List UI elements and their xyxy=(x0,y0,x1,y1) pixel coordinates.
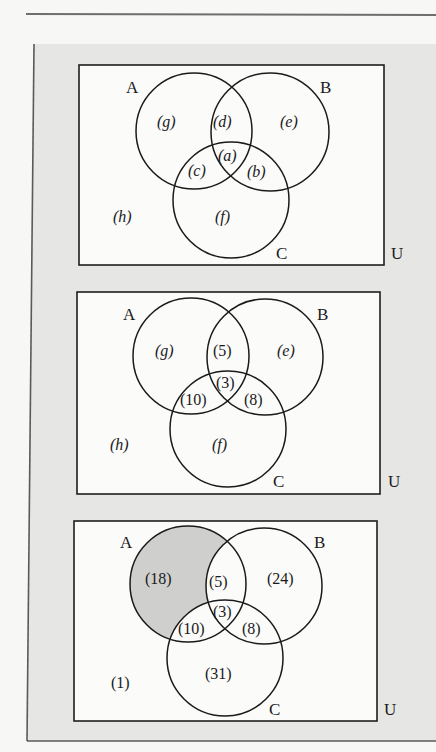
region-outside: (h) xyxy=(110,436,129,454)
region-bc-only: (8) xyxy=(242,620,261,638)
region-bc-only: (b) xyxy=(247,163,266,181)
region-b-only: (e) xyxy=(280,113,298,131)
region-a-only: (g) xyxy=(155,342,174,360)
set-label-a: A xyxy=(123,305,136,324)
set-label-u: U xyxy=(384,700,396,719)
region-ac-only: (10) xyxy=(178,620,205,638)
set-label-c: C xyxy=(269,700,280,719)
region-outside: (1) xyxy=(111,674,130,692)
region-b-only: (24) xyxy=(267,570,294,588)
region-outside: (h) xyxy=(113,208,132,226)
set-label-u: U xyxy=(388,472,400,491)
venn-diagram-2: A B C U (g) (e) (5) (3) (10) (8) (f) (h) xyxy=(77,292,400,494)
region-c-only: (f) xyxy=(212,436,227,454)
region-ab-only: (d) xyxy=(213,113,232,131)
set-label-b: B xyxy=(317,305,328,324)
top-rule xyxy=(26,14,436,15)
region-bc-only: (8) xyxy=(244,391,263,409)
universe-rect xyxy=(79,65,384,265)
region-ac-only: (c) xyxy=(188,162,206,180)
region-c-only: (f) xyxy=(215,208,230,226)
region-abc: (3) xyxy=(216,374,235,392)
set-label-a: A xyxy=(120,533,133,552)
set-label-b: B xyxy=(314,533,325,552)
set-label-c: C xyxy=(276,244,287,263)
set-label-b: B xyxy=(320,78,331,97)
venn-diagram-1: A B C U (g) (e) (d) (a) (c) (b) (f) (h) xyxy=(79,65,403,265)
region-b-only: (e) xyxy=(277,342,295,360)
region-c-only: (31) xyxy=(205,665,232,683)
venn-diagram-3: A B C U (18) (24) (5) (3) (10) (8) (31) … xyxy=(74,521,396,721)
region-ab-only: (5) xyxy=(213,342,232,360)
region-ab-only: (5) xyxy=(209,573,228,591)
region-ac-only: (10) xyxy=(180,391,207,409)
region-a-only: (g) xyxy=(157,113,176,131)
set-label-a: A xyxy=(126,78,139,97)
venn-figure: A B C U (g) (e) (d) (a) (c) (b) (f) (h) … xyxy=(0,0,436,752)
region-abc: (3) xyxy=(213,603,232,621)
set-label-u: U xyxy=(391,244,403,263)
set-label-c: C xyxy=(273,472,284,491)
region-abc: (a) xyxy=(218,147,237,165)
region-a-only: (18) xyxy=(145,570,172,588)
